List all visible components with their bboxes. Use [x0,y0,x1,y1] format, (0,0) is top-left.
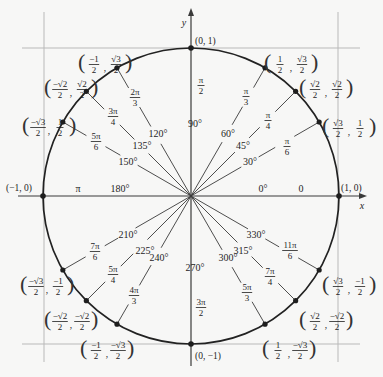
radian-label-45: π4 [265,110,272,131]
comma: , [290,63,292,73]
degree-label-60: 60° [221,128,235,139]
coordinate-pair-60: (12,√32) [264,49,318,75]
right-paren: ) [309,335,316,360]
coordinate-label-270: (0, −1) [195,351,221,362]
coord-y-135: √22 [77,79,87,100]
coord-y-30-denominator: 2 [358,129,363,139]
axis-radian-label-0-numerator: π [199,75,204,85]
degree-label-315: 315° [234,245,253,256]
axis-radian-label-1: 3π2 [196,297,206,318]
coordinate-pair-150: (−√32,12) [22,112,76,138]
comma: , [48,126,50,136]
x-axis-label: x [359,200,365,211]
radian-label-210-numerator: 7π [90,241,100,251]
coord-x-210-denominator: 2 [34,287,39,297]
point-330 [317,267,322,272]
radial-line-330 [298,258,319,270]
comma: , [46,285,48,295]
radian-label-210-denominator: 6 [93,252,98,262]
coordinate-label-0: (1, 0) [341,183,362,194]
coord-y-120-numerator: √3 [111,54,121,64]
coord-x-45-numerator: √2 [310,79,319,89]
x-axis-arrow-icon [359,193,367,199]
radial-line-330 [265,239,279,247]
left-paren: ( [322,271,329,296]
point-45 [293,89,298,94]
coord-x-150-denominator: 2 [36,128,41,138]
axis-angle-label-2: 180° [111,183,130,194]
radian-label-315: 7π4 [265,266,275,287]
degree-label-210: 210° [119,229,138,240]
coord-y-60: √32 [297,54,307,75]
comma: , [348,285,350,295]
radial-line-300 [252,302,265,324]
right-paren: ) [369,271,376,296]
radial-line-150 [105,147,120,156]
left-paren: ( [262,335,269,360]
radial-line-300 [232,267,241,283]
radian-label-120: 2π3 [130,87,140,108]
point-180 [40,193,46,199]
coord-y-45-denominator: 2 [335,90,340,100]
coord-x-150: −√32 [30,117,46,138]
left-paren: ( [44,74,51,99]
coord-x-330-denominator: 2 [336,287,341,297]
coord-x-120: −12 [89,54,99,75]
right-paren: ) [67,271,74,296]
coord-x-60-denominator: 2 [278,65,283,75]
coord-y-135-denominator: 2 [80,90,85,100]
radian-label-330: 11π6 [282,240,298,261]
coord-x-300-numerator: 1 [276,340,281,350]
point-240 [114,322,119,327]
radian-label-120-numerator: 2π [130,87,140,97]
comma: , [325,320,327,330]
point-300 [262,322,267,327]
radial-line-30 [294,122,319,136]
coord-x-225-numerator: −√2 [53,311,68,321]
coord-x-240: −12 [91,340,101,361]
coord-x-30-denominator: 2 [336,129,341,139]
coord-x-30-numerator: √3 [333,118,343,128]
radian-label-240-numerator: 4π [129,285,139,295]
comma: , [106,349,108,359]
axis-angle-label-1: 0 [299,183,304,194]
coord-y-60-denominator: 2 [300,65,305,75]
radial-line-315 [278,283,295,300]
coord-x-330-numerator: √3 [333,276,343,286]
radian-label-150: 5π6 [91,131,101,152]
coord-x-315: √22 [310,311,320,332]
coord-y-60-numerator: √3 [297,54,307,64]
point-30 [317,119,322,124]
axis-radian-label-1-numerator: 3π [196,297,206,307]
point-210 [60,267,65,272]
coord-y-45-numerator: √2 [332,79,341,89]
point-270 [188,341,194,347]
left-paren: ( [44,306,51,331]
coord-y-45: √22 [332,79,342,100]
coordinate-pair-225: (−√22,−√22) [44,306,98,332]
y-axis-label: y [181,17,187,28]
radial-line-45 [249,127,260,138]
coord-x-240-numerator: −1 [91,340,101,350]
coord-x-330: √32 [333,276,343,297]
radial-line-240 [117,304,128,324]
radian-label-45-denominator: 4 [266,121,271,131]
coord-x-45: √22 [310,79,320,100]
coord-x-300: 12 [275,340,282,361]
coord-x-150-numerator: −√3 [31,117,46,127]
axis-radian-label-1-denominator: 2 [199,308,204,318]
coord-y-210-denominator: 2 [56,287,61,297]
coord-y-120-denominator: 2 [114,65,119,75]
axis-angle-label-5: 270° [186,262,205,273]
coord-y-300: −√32 [292,340,308,361]
radian-label-330-denominator: 6 [288,251,293,261]
left-paren: ( [299,74,306,99]
coord-y-225: −√22 [74,311,90,332]
coord-x-300-denominator: 2 [276,351,281,361]
coord-y-315: −√22 [329,311,345,332]
coord-y-330-numerator: −1 [355,276,365,286]
radian-label-120-denominator: 3 [133,98,138,108]
coordinate-pair-45: (√22,√22) [299,74,353,100]
degree-label-45: 45° [236,140,250,151]
degree-label-330: 330° [247,229,266,240]
